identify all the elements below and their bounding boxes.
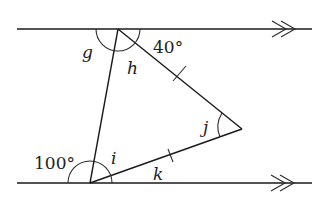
angle-arc-j (218, 113, 222, 137)
label-h: h (127, 58, 138, 78)
label-g: g (82, 42, 93, 62)
label-angle-40: 40° (153, 37, 183, 57)
label-angle-100: 100° (34, 153, 75, 173)
label-j: j (199, 117, 209, 137)
label-k: k (153, 164, 163, 184)
label-i: i (111, 148, 116, 168)
geometry-diagram: g h 40° j 100° i k (0, 0, 329, 201)
